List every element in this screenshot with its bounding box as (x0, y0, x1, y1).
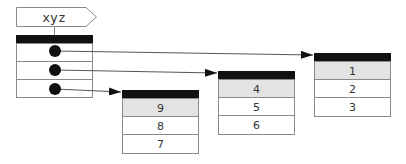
pointer-dot-1 (49, 45, 61, 57)
pointer-dot-2 (49, 64, 61, 76)
array-a-cell-1: 2 (349, 83, 356, 96)
array-c-cell-0: 9 (157, 102, 164, 115)
array-a-cell-0: 1 (349, 65, 356, 78)
pointer-array-header (16, 35, 93, 43)
array-a-header (314, 53, 391, 61)
array-c-cell-2: 7 (157, 138, 164, 151)
array-b-cell-0: 4 (253, 83, 260, 96)
array-c: 9 8 7 (122, 90, 199, 154)
pointer-dot-3 (49, 83, 61, 95)
array-c-header (122, 90, 199, 98)
variable-label: xyz (42, 10, 65, 25)
array-b-cell-1: 5 (253, 101, 260, 114)
variable-label-tag: xyz (17, 8, 97, 36)
diagram-canvas: xyz 1 2 3 4 5 6 9 (0, 0, 406, 164)
array-b-header (218, 71, 295, 79)
array-a: 1 2 3 (314, 53, 391, 117)
array-c-cell-1: 8 (157, 120, 164, 133)
pointer-arrow-1 (55, 51, 313, 55)
array-b: 4 5 6 (218, 71, 295, 135)
array-b-cell-2: 6 (253, 119, 260, 132)
array-a-cell-2: 3 (349, 101, 356, 114)
